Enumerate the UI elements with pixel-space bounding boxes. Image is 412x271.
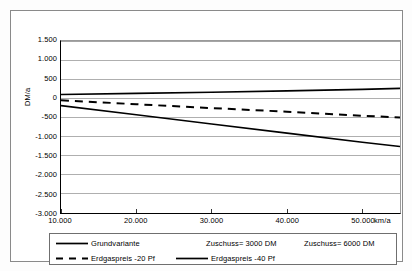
x-tick-label: 10.000 bbox=[48, 216, 72, 225]
legend-entry-zuschuss-3000[interactable]: Zuschuss= 3000 DM bbox=[206, 235, 277, 251]
legend-swatch-solid-icon bbox=[56, 239, 88, 248]
y-tick-label: 1.500 bbox=[13, 36, 57, 44]
y-axis-tick-labels: 1.500 1.000 500 0 -500 -1.000 -1.500 -2.… bbox=[11, 40, 57, 214]
legend-entry-grundvariante[interactable]: Grundvariante bbox=[56, 235, 140, 251]
legend-entry-erdgaspreis-20pf[interactable]: Erdgaspreis -20 Pf bbox=[56, 250, 155, 266]
y-tick-label: -1.000 bbox=[13, 133, 57, 141]
y-tick-label: -2.500 bbox=[13, 191, 57, 199]
y-tick-label: -1.500 bbox=[13, 152, 57, 160]
x-axis-tick-marks bbox=[61, 209, 362, 213]
legend-entry-erdgaspreis-40pf[interactable]: Erdgaspreis -40 Pf bbox=[176, 250, 275, 266]
legend-label: Grundvariante bbox=[91, 239, 140, 248]
plot-svg bbox=[61, 41, 400, 213]
plot-area bbox=[60, 40, 401, 214]
x-tick-label: 40.000 bbox=[276, 216, 300, 225]
legend-label: Erdgaspreis -20 Pf bbox=[91, 254, 155, 263]
y-tick-label: -500 bbox=[13, 113, 57, 121]
x-tick-label: 20.000 bbox=[124, 216, 148, 225]
y-tick-label: 500 bbox=[13, 75, 57, 83]
legend-swatch-solid-icon bbox=[176, 254, 208, 263]
x-axis-tick-labels: 10.000 20.000 30.000 40.000 50.000 bbox=[60, 216, 401, 230]
x-tick-label: 50.000 bbox=[351, 216, 375, 225]
legend-row: Grundvariante Zuschuss= 3000 DM Zuschuss… bbox=[50, 235, 396, 251]
screenshot-root: 1.500 1.000 500 0 -500 -1.000 -1.500 -2.… bbox=[0, 0, 412, 271]
y-tick-label: -2.000 bbox=[13, 171, 57, 179]
legend-row: Erdgaspreis -20 Pf Erdgaspreis -40 Pf bbox=[50, 250, 396, 266]
legend-swatch-dashed-icon bbox=[56, 254, 88, 263]
legend-label: Erdgaspreis -40 Pf bbox=[211, 254, 275, 263]
chart-frame: 1.500 1.000 500 0 -500 -1.000 -1.500 -2.… bbox=[10, 10, 403, 262]
x-axis-unit-label: km/a bbox=[374, 216, 391, 225]
chart-legend: Grundvariante Zuschuss= 3000 DM Zuschuss… bbox=[49, 233, 397, 265]
legend-entry-zuschuss-6000[interactable]: Zuschuss= 6000 DM bbox=[304, 235, 375, 251]
x-tick-label: 30.000 bbox=[200, 216, 224, 225]
y-tick-label: 0 bbox=[13, 94, 57, 102]
legend-label: Zuschuss= 6000 DM bbox=[304, 239, 375, 248]
y-axis-title: DM/a bbox=[23, 88, 32, 106]
legend-label: Zuschuss= 3000 DM bbox=[206, 239, 277, 248]
y-tick-label: 1.000 bbox=[13, 55, 57, 63]
